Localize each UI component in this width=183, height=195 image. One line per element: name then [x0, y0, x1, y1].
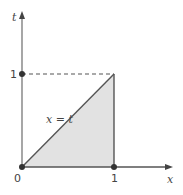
x-axis-arrow-icon	[165, 164, 173, 170]
x-tick-label: 1	[111, 172, 118, 185]
x-one-point	[111, 164, 117, 170]
t-tick-label: 1	[10, 68, 17, 81]
region-diagram: t x 0 1 1 x = t	[0, 0, 183, 195]
x-axis-label: x	[167, 173, 174, 186]
origin-label: 0	[14, 172, 21, 185]
t-one-point	[19, 71, 25, 77]
origin-point	[19, 164, 25, 170]
line-label: x = t	[46, 113, 73, 126]
t-axis-label: t	[12, 11, 17, 24]
t-axis-arrow-icon	[19, 11, 25, 19]
